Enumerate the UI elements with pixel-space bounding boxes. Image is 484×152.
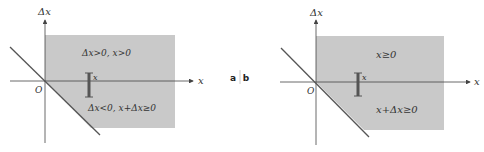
y-axis-label: Δx: [37, 6, 51, 17]
label-a: a: [230, 73, 236, 83]
origin-label: O: [35, 85, 43, 95]
panel-separator: a b: [230, 70, 250, 84]
y-axis-label: Δx: [309, 7, 323, 18]
panel-b: Δx x O x x≥0 x+Δx≥0: [280, 7, 480, 145]
x-axis-label: x: [474, 76, 480, 87]
bar-label: x: [93, 73, 98, 82]
panel-a: Δx x O x Δx>0, x>0 Δx<0, x+Δx≥0: [10, 6, 204, 143]
origin-label: O: [307, 86, 315, 96]
upper-region-label: x≥0: [376, 49, 397, 60]
lower-region-label: x+Δx≥0: [376, 104, 418, 115]
x-axis-label: x: [198, 75, 204, 86]
upper-region-label: Δx>0, x>0: [81, 48, 131, 58]
bar-label: x: [362, 73, 367, 82]
diagram-canvas: Δx x O x Δx>0, x>0 Δx<0, x+Δx≥0 a b Δx x…: [0, 0, 484, 152]
lower-region-label: Δx<0, x+Δx≥0: [87, 103, 156, 113]
label-b: b: [243, 73, 250, 83]
